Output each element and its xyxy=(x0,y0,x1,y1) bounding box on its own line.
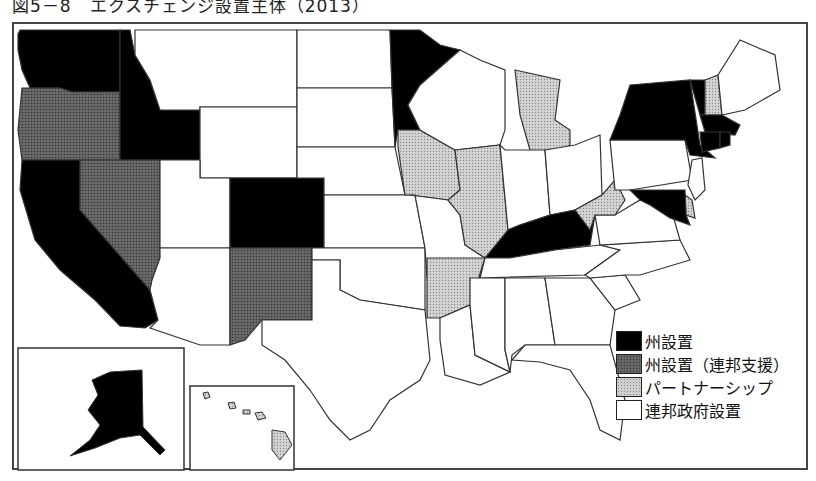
state-mt xyxy=(135,30,297,110)
state-mi xyxy=(515,70,570,160)
legend-label: 州設置 xyxy=(645,329,693,353)
state-ks xyxy=(324,195,425,248)
legend-swatch-state-federal-support xyxy=(616,354,642,374)
legend-swatch-state xyxy=(616,331,642,351)
legend-item-federal: 連邦政府設置 xyxy=(616,399,789,421)
legend-item-state-federal-support: 州設置（連邦支援） xyxy=(616,353,789,375)
state-nj xyxy=(688,158,705,200)
legend-label: パートナーシップ xyxy=(645,375,773,399)
state-fl xyxy=(512,345,625,440)
legend-label: 連邦政府設置 xyxy=(645,398,741,422)
legend-swatch-federal xyxy=(616,400,642,420)
legend-item-partnership: パートナーシップ xyxy=(616,376,789,398)
legend: 州設置 州設置（連邦支援） パートナーシップ 連邦政府設置 xyxy=(616,330,789,422)
state-nd xyxy=(297,30,392,88)
legend-item-state: 州設置 xyxy=(616,330,789,352)
state-wa xyxy=(18,30,120,92)
state-me xyxy=(718,40,780,115)
state-or xyxy=(18,88,120,160)
state-hi xyxy=(243,410,250,414)
legend-swatch-partnership xyxy=(616,377,642,397)
state-hi xyxy=(228,402,236,409)
legend-label: 州設置（連邦支援） xyxy=(645,352,789,376)
state-wy xyxy=(200,107,297,178)
state-sd xyxy=(297,88,395,147)
state-co xyxy=(230,178,324,248)
state-ri xyxy=(720,132,730,148)
state-az xyxy=(150,248,230,345)
state-ct xyxy=(700,132,720,152)
state-pa xyxy=(610,140,692,190)
